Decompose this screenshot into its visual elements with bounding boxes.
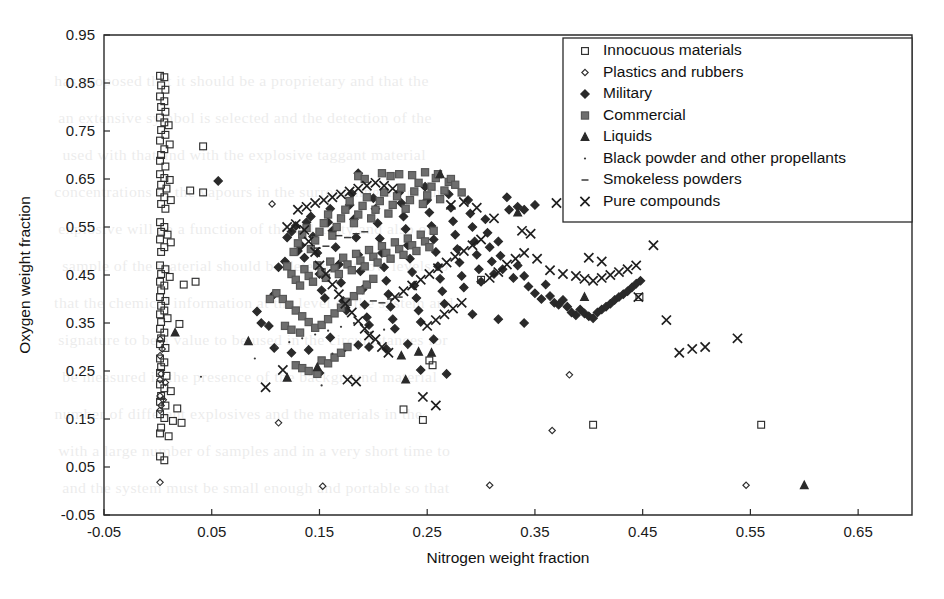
data-point (321, 384, 323, 386)
data-point (178, 419, 185, 426)
data-point (532, 254, 541, 263)
data-point (758, 421, 765, 428)
data-point (733, 334, 742, 343)
x-tick-label: 0.25 (413, 523, 442, 540)
data-point (382, 277, 390, 285)
legend-label: Commercial (603, 106, 686, 123)
data-point (331, 353, 333, 355)
data-point (421, 169, 428, 176)
legend-label: Liquids (603, 127, 652, 144)
data-point (472, 203, 481, 212)
data-point (520, 319, 528, 327)
data-point (200, 376, 202, 378)
data-point (328, 193, 337, 202)
data-point (430, 227, 437, 234)
data-point (520, 248, 529, 257)
y-tick-label: 0.55 (66, 218, 95, 235)
data-point (399, 212, 407, 220)
data-point (296, 282, 303, 289)
data-point (481, 215, 489, 223)
data-point (300, 254, 308, 262)
data-point (328, 280, 337, 289)
x-tick-label: 0.55 (736, 523, 765, 540)
data-point (161, 194, 168, 201)
data-point (361, 301, 369, 309)
data-point (383, 329, 385, 331)
data-point (167, 197, 174, 204)
data-point (374, 259, 381, 266)
data-point (253, 307, 261, 315)
data-point (448, 304, 457, 313)
data-point (460, 283, 468, 291)
data-point (475, 265, 483, 273)
plot-canvas: -0.050.050.150.250.350.450.550.65-0.050.… (0, 0, 944, 599)
data-point (365, 246, 372, 253)
data-point (340, 254, 347, 261)
legend-label: Military (603, 84, 652, 101)
data-point (389, 201, 396, 208)
data-point (417, 231, 424, 238)
data-point (274, 263, 282, 271)
data-point (429, 235, 437, 243)
y-tick-label: -0.05 (61, 506, 95, 523)
data-point (426, 244, 433, 251)
data-point (408, 268, 416, 276)
data-point (275, 420, 281, 426)
data-point (350, 220, 357, 227)
data-point (396, 171, 403, 178)
data-point (157, 93, 164, 100)
legend-marker-filled-square (581, 112, 588, 119)
data-point (301, 266, 308, 273)
data-point (494, 315, 502, 323)
data-point (440, 300, 448, 308)
y-tick-label: 0.95 (66, 26, 95, 43)
data-point (371, 178, 380, 187)
x-tick-label: 0.05 (197, 523, 226, 540)
data-point (418, 392, 427, 401)
data-point (333, 223, 340, 230)
data-point (167, 388, 174, 395)
data-point (316, 228, 323, 235)
data-point (261, 383, 270, 392)
data-point (452, 181, 459, 188)
data-point (304, 346, 312, 354)
data-point (164, 231, 171, 238)
data-point (157, 479, 163, 485)
x-tick-label: 0.35 (520, 523, 549, 540)
data-point (337, 278, 345, 286)
y-axis-title: Oxygen weight fraction (16, 196, 33, 354)
legend-label: Pure compounds (603, 192, 720, 209)
data-point (459, 246, 468, 255)
legend-label: Black powder and other propellants (603, 149, 846, 166)
data-point (157, 236, 164, 243)
data-point (537, 295, 545, 303)
data-point (531, 201, 539, 209)
y-tick-label: 0.05 (66, 458, 95, 475)
data-point (192, 278, 199, 285)
data-point (468, 310, 476, 318)
data-point (401, 225, 409, 233)
data-point (701, 342, 710, 351)
data-point (344, 343, 351, 350)
data-point (326, 333, 334, 341)
data-point (157, 189, 164, 196)
data-point (171, 328, 179, 336)
data-point (200, 189, 207, 196)
data-point (344, 350, 346, 352)
data-point (449, 217, 457, 225)
data-point (365, 343, 373, 351)
data-point (398, 184, 405, 191)
data-point (402, 375, 410, 383)
data-point (509, 274, 517, 282)
data-point (402, 205, 409, 212)
y-tick-label: 0.45 (66, 266, 95, 283)
data-point (391, 325, 399, 333)
data-point (503, 193, 511, 201)
data-point (580, 274, 589, 283)
data-point (320, 220, 327, 227)
data-point (167, 239, 174, 246)
data-point (531, 289, 539, 297)
data-point (597, 257, 606, 266)
data-point (431, 316, 440, 325)
data-point (180, 281, 187, 288)
